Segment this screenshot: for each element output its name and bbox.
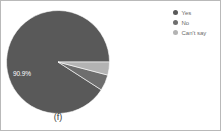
slice-label-yes: 90.9% [13, 71, 31, 78]
pie-chart-area: 90.9% [6, 10, 110, 114]
legend-item-yes[interactable]: Yes [173, 9, 206, 16]
figure-caption: (f) [1, 113, 115, 122]
pie-chart-figure: 90.9% (f) Yes No Can't say [0, 0, 221, 131]
circle-swatch-icon [173, 20, 178, 25]
circle-swatch-icon [173, 30, 178, 35]
legend-label: Can't say [182, 30, 207, 36]
legend-label: No [182, 20, 190, 26]
legend-item-no[interactable]: No [173, 19, 206, 26]
pie-slices [6, 11, 109, 114]
pie-chart-svg [6, 10, 110, 114]
legend-item-cant-say[interactable]: Can't say [173, 29, 206, 36]
legend-label: Yes [182, 10, 192, 16]
circle-swatch-icon [173, 10, 178, 15]
chart-legend: Yes No Can't say [173, 9, 206, 36]
